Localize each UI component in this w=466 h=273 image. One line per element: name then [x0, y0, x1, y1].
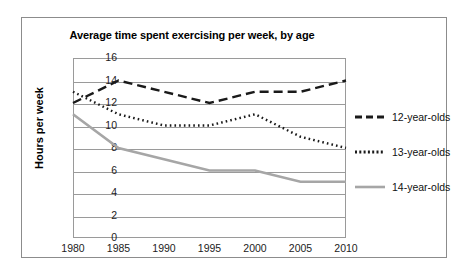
x-tick-label: 2000 [235, 242, 275, 254]
legend-item[interactable]: 14-year-olds [355, 174, 450, 200]
series-line [73, 81, 346, 104]
x-tick-label: 1995 [190, 242, 230, 254]
legend-item[interactable]: 13-year-olds [355, 139, 450, 165]
chart-legend: 12-year-olds13-year-olds14-year-olds [355, 104, 450, 209]
legend-swatch-dashed [355, 112, 385, 122]
x-tick-label: 1990 [144, 242, 184, 254]
series-line [73, 114, 346, 182]
legend-swatch-solid [355, 182, 385, 192]
legend-item[interactable]: 12-year-olds [355, 104, 450, 130]
series-layer [73, 58, 346, 238]
legend-label: 13-year-olds [392, 146, 450, 158]
x-tick-label: 1985 [99, 242, 139, 254]
chart-figure: Average time spent exercising per week, … [21, 17, 447, 258]
x-tick-label: 2005 [281, 242, 321, 254]
series-line [73, 92, 346, 148]
chart-title: Average time spent exercising per week, … [22, 29, 362, 41]
legend-label: 12-year-olds [392, 111, 450, 123]
y-axis-label: Hours per week [33, 73, 45, 183]
x-tick-label: 1980 [53, 242, 93, 254]
x-tick-label: 2010 [326, 242, 366, 254]
legend-label: 14-year-olds [392, 181, 450, 193]
legend-swatch-dotted [355, 147, 385, 157]
